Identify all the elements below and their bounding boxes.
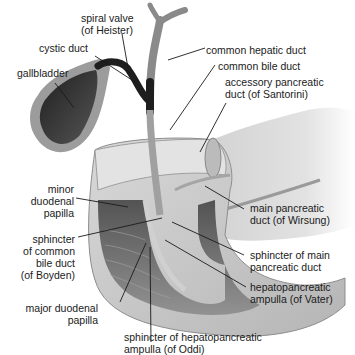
label-sphincter-hepatopancreatic-ampulla: sphincter of hepatopancreatic ampulla (o… bbox=[124, 331, 262, 355]
label-common-hepatic-duct: common hepatic duct bbox=[206, 44, 306, 56]
label-cystic-duct: cystic duct bbox=[39, 42, 88, 54]
label-hepatopancreatic-ampulla: hepatopancreatic ampulla (of Vater) bbox=[250, 281, 333, 305]
label-gallbladder: gallbladder bbox=[17, 67, 68, 79]
label-minor-duodenal-papilla: minor duodenal papilla bbox=[16, 183, 74, 219]
label-major-duodenal-papilla: major duodenal papilla bbox=[14, 302, 98, 326]
label-spiral-valve: spiral valve (of Heister) bbox=[81, 12, 134, 36]
label-accessory-pancreatic-duct: accessory pancreatic duct (of Santorini) bbox=[225, 76, 324, 100]
label-sphincter-main-pancreatic-duct: sphincter of main pancreatic duct bbox=[250, 249, 330, 273]
label-common-bile-duct: common bile duct bbox=[218, 60, 300, 72]
label-sphincter-common-bile-duct: sphincter of common bile duct (of Boyden… bbox=[12, 233, 75, 281]
anatomy-diagram: spiral valve (of Heister) cystic duct ga… bbox=[0, 0, 355, 355]
label-main-pancreatic-duct: main pancreatic duct (of Wirsung) bbox=[250, 202, 330, 226]
